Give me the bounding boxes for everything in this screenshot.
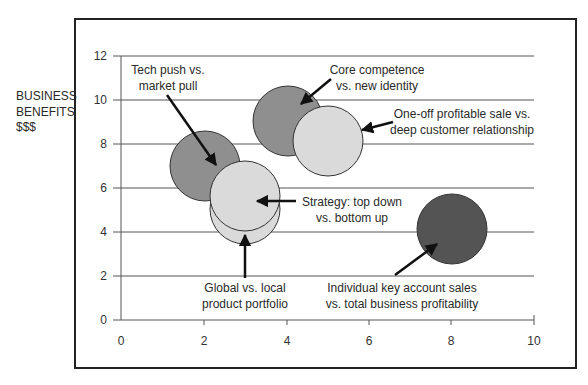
x-tick-4: 4 xyxy=(284,334,291,348)
bubble-individual-account[interactable] xyxy=(417,194,487,264)
y-tick-10: 10 xyxy=(94,93,108,107)
bubble-one-off-sale[interactable] xyxy=(293,106,363,176)
x-tick-2: 2 xyxy=(201,334,208,348)
y-tick-0: 0 xyxy=(100,313,107,327)
label-strategy-line2: vs. bottom up xyxy=(316,211,388,225)
arrow-one-off xyxy=(362,122,393,130)
x-tick-8: 8 xyxy=(448,334,455,348)
x-tick-0: 0 xyxy=(118,334,125,348)
label-core-line2: vs. new identity xyxy=(336,79,418,93)
label-core-line1: Core competence xyxy=(330,63,425,77)
y-tick-2: 2 xyxy=(100,269,107,283)
label-global-line1: Global vs. local xyxy=(204,281,285,295)
label-individual-line2: vs. total business profitability xyxy=(326,297,479,311)
x-tick-6: 6 xyxy=(366,334,373,348)
arrow-individual xyxy=(395,244,437,275)
label-tech-line2: market pull xyxy=(139,79,198,93)
x-tick-labels: 0 2 4 6 8 10 xyxy=(118,334,541,348)
y-tick-labels: 0 2 4 6 8 10 12 xyxy=(94,49,108,327)
label-strategy-line1: Strategy: top down xyxy=(302,195,402,209)
y-tick-6: 6 xyxy=(100,181,107,195)
bubble-strategy[interactable] xyxy=(210,161,280,231)
x-tick-10: 10 xyxy=(527,334,541,348)
label-tech-line1: Tech push vs. xyxy=(131,63,204,77)
label-oneoff-line2: deep customer relationship xyxy=(390,123,534,137)
y-tick-12: 12 xyxy=(94,49,108,63)
bubble-chart: 0 2 4 6 8 10 12 0 2 4 6 8 10 Tech push v… xyxy=(0,0,588,385)
label-global-line2: product portfolio xyxy=(202,297,288,311)
y-tick-8: 8 xyxy=(100,137,107,151)
y-tick-4: 4 xyxy=(100,225,107,239)
label-oneoff-line1: One-off profitable sale vs. xyxy=(394,107,531,121)
label-individual-line1: Individual key account sales xyxy=(327,281,476,295)
